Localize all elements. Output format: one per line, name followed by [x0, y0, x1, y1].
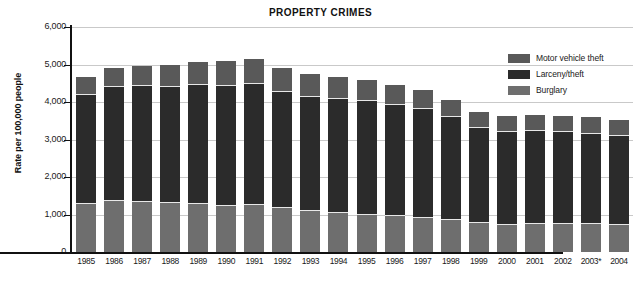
bar-segment-larceny-theft [188, 85, 208, 204]
bar-segment-larceny-theft [357, 101, 377, 215]
segment-divider [188, 84, 208, 85]
bar-segment-motor-vehicle-theft [244, 59, 264, 84]
bar-segment-burglary [497, 225, 517, 252]
bar-segment-burglary [581, 224, 601, 252]
segment-divider [76, 94, 96, 95]
segment-divider [497, 131, 517, 132]
bar-segment-motor-vehicle-theft [525, 115, 545, 131]
segment-divider [357, 214, 377, 215]
segment-divider [469, 127, 489, 128]
y-axis-tick [64, 102, 71, 103]
bar-segment-burglary [188, 204, 208, 252]
y-axis-tick [64, 27, 71, 28]
segment-divider [244, 83, 264, 84]
bar-1994 [328, 77, 348, 252]
segment-divider [357, 100, 377, 101]
bar-segment-burglary [357, 215, 377, 252]
segment-divider [76, 203, 96, 204]
legend-item: Motor vehicle theft [508, 51, 638, 65]
bar-segment-burglary [300, 211, 320, 252]
property-crimes-chart: PROPERTY CRIMES Rate per 100,000 people … [0, 0, 641, 281]
segment-divider [413, 108, 433, 109]
bar-segment-motor-vehicle-theft [160, 65, 180, 87]
y-axis-tick [64, 252, 71, 253]
bar-segment-larceny-theft [385, 105, 405, 217]
segment-divider [525, 223, 545, 224]
segment-divider [609, 224, 629, 225]
segment-divider [300, 96, 320, 97]
bar-1993 [300, 74, 320, 252]
bar-segment-burglary [244, 205, 264, 252]
gridline [72, 102, 633, 103]
segment-divider [272, 91, 292, 92]
bar-segment-motor-vehicle-theft [553, 116, 573, 132]
bar-segment-larceny-theft [413, 109, 433, 217]
bar-segment-motor-vehicle-theft [609, 120, 629, 136]
y-axis-tick-label: 5,000 [22, 59, 66, 69]
segment-divider [385, 215, 405, 216]
segment-divider [385, 104, 405, 105]
bar-segment-burglary [132, 202, 152, 252]
bar-2000 [497, 116, 517, 252]
bar-segment-larceny-theft [132, 86, 152, 202]
segment-divider [581, 133, 601, 134]
bar-segment-motor-vehicle-theft [328, 77, 348, 99]
y-axis-tick [64, 65, 71, 66]
bar-segment-motor-vehicle-theft [132, 66, 152, 86]
bar-2004 [609, 120, 629, 252]
segment-divider [553, 223, 573, 224]
legend-swatch-icon [508, 86, 530, 95]
bar-segment-burglary [553, 224, 573, 252]
bar-1998 [441, 100, 461, 252]
bar-segment-motor-vehicle-theft [385, 85, 405, 105]
bar-segment-larceny-theft [469, 128, 489, 224]
segment-divider [609, 135, 629, 136]
bar-segment-motor-vehicle-theft [76, 77, 96, 94]
bar-1987 [132, 66, 152, 252]
bar-segment-burglary [216, 206, 236, 253]
y-axis-tick-labels: 01,0002,0003,0004,0005,0006,000 [14, 0, 66, 281]
legend-label: Motor vehicle theft [536, 53, 604, 63]
bar-segment-burglary [328, 213, 348, 252]
segment-divider [132, 201, 152, 202]
bar-segment-burglary [272, 208, 292, 252]
bar-segment-burglary [609, 225, 629, 252]
bar-segment-motor-vehicle-theft [104, 68, 124, 87]
bar-segment-motor-vehicle-theft [357, 80, 377, 101]
segment-divider [160, 86, 180, 87]
bar-segment-larceny-theft [104, 87, 124, 201]
bar-segment-burglary [469, 223, 489, 252]
bar-2003 [581, 117, 601, 252]
bar-segment-larceny-theft [300, 97, 320, 211]
bar-segment-motor-vehicle-theft [497, 116, 517, 131]
y-axis-tick [64, 140, 71, 141]
segment-divider [104, 200, 124, 201]
bar-segment-burglary [104, 201, 124, 252]
bar-segment-burglary [76, 204, 96, 252]
bar-segment-motor-vehicle-theft [469, 112, 489, 128]
segment-divider [441, 116, 461, 117]
y-axis-tick-label: 1,000 [22, 209, 66, 219]
gridline [72, 27, 633, 28]
bar-segment-larceny-theft [244, 84, 264, 206]
y-axis-tick-label: 0 [22, 246, 66, 256]
segment-divider [132, 85, 152, 86]
segment-divider [328, 98, 348, 99]
segment-divider [328, 212, 348, 213]
bar-segment-larceny-theft [160, 87, 180, 203]
bar-segment-larceny-theft [441, 117, 461, 219]
segment-divider [160, 202, 180, 203]
x-axis-line [0, 252, 563, 254]
bar-1996 [385, 85, 405, 252]
bar-segment-larceny-theft [328, 99, 348, 213]
bar-segment-larceny-theft [497, 132, 517, 225]
bar-segment-motor-vehicle-theft [300, 74, 320, 97]
bar-1991 [244, 59, 264, 252]
bar-segment-burglary [385, 216, 405, 252]
y-axis-tick-label: 6,000 [22, 21, 66, 31]
segment-divider [300, 210, 320, 211]
bar-segment-burglary [413, 218, 433, 253]
bar-1988 [160, 65, 180, 253]
y-axis-tick-label: 4,000 [22, 96, 66, 106]
bar-1992 [272, 68, 292, 252]
